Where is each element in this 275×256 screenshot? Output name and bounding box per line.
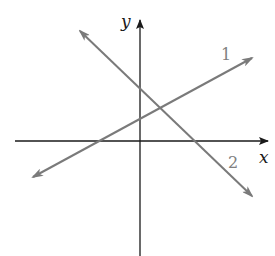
x-axis-label: x <box>259 147 269 167</box>
line-2-label: 2 <box>228 153 238 172</box>
line-1 <box>33 58 252 177</box>
line-1-label: 1 <box>221 45 231 64</box>
coordinate-diagram: y x 1 2 <box>0 0 275 256</box>
y-axis-label: y <box>120 11 131 31</box>
